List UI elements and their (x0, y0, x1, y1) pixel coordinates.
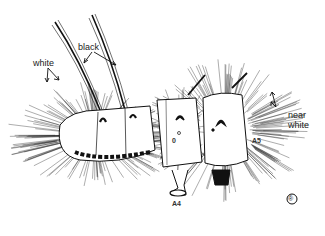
copyright-symbol: ® (288, 194, 293, 204)
hair-stroke (245, 81, 261, 102)
hair-stroke (47, 155, 72, 176)
hair-stroke (253, 147, 277, 161)
setae-hairs (9, 59, 309, 201)
hair-stroke (54, 90, 76, 114)
thoracic-segments (59, 106, 155, 161)
label-near-white-2: white (288, 120, 309, 130)
hair-stroke (255, 131, 296, 133)
hair-stroke (254, 147, 275, 159)
caterpillar-illustration (0, 0, 325, 236)
hair-stroke (248, 97, 291, 119)
hair-stroke (248, 95, 263, 109)
hair-stroke (247, 153, 267, 173)
hair-stroke (81, 82, 90, 114)
label-black: black (78, 42, 99, 52)
hair-stroke (252, 145, 278, 159)
label-a5: A5 (252, 136, 261, 146)
hair-stroke (254, 148, 292, 171)
label-spiracle-a4: 0 (172, 136, 176, 146)
label-a4: A4 (172, 199, 181, 209)
segment-a5 (203, 93, 248, 185)
hair-stroke (14, 139, 66, 146)
label-white: white (33, 58, 54, 68)
segment-a4 (157, 98, 202, 196)
label-near-white-1: near (288, 110, 306, 120)
hair-stroke (34, 141, 57, 145)
hair-stroke (104, 90, 112, 111)
